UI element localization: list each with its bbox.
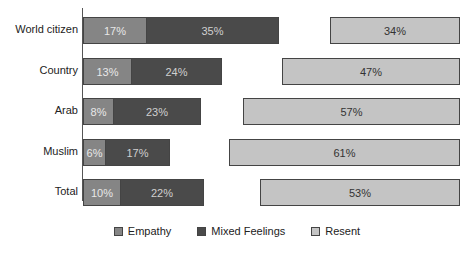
legend-label: Resent bbox=[325, 225, 360, 237]
bar-mixed-feelings: 23% bbox=[113, 98, 201, 125]
legend-label: Mixed Feelings bbox=[211, 225, 285, 237]
category-label: Arab bbox=[55, 104, 78, 116]
empathy-swatch-icon bbox=[114, 227, 123, 236]
bar-resent: 47% bbox=[282, 58, 460, 85]
bar-mixed-feelings: 24% bbox=[131, 58, 222, 85]
legend-label: Empathy bbox=[128, 225, 171, 237]
resent-swatch-icon bbox=[311, 227, 320, 236]
category-label: Total bbox=[55, 185, 78, 197]
bar-mixed-feelings: 35% bbox=[146, 17, 279, 44]
bar-empathy: 10% bbox=[83, 179, 120, 206]
bar-mixed-feelings: 22% bbox=[120, 179, 204, 206]
legend-item-empathy: Empathy bbox=[114, 225, 171, 237]
bar-resent: 57% bbox=[243, 98, 460, 125]
bar-resent: 53% bbox=[260, 179, 460, 206]
bar-empathy: 13% bbox=[83, 58, 131, 85]
legend: Empathy Mixed Feelings Resent bbox=[0, 225, 474, 237]
category-label: Country bbox=[39, 64, 78, 76]
bar-mixed-feelings: 17% bbox=[105, 139, 170, 166]
legend-item-resent: Resent bbox=[311, 225, 360, 237]
bar-resent: 34% bbox=[330, 17, 460, 44]
bar-empathy: 17% bbox=[83, 17, 146, 44]
bar-empathy: 8% bbox=[83, 98, 113, 125]
bar-empathy: 6% bbox=[83, 139, 105, 166]
category-label: Muslim bbox=[43, 145, 78, 157]
bar-resent: 61% bbox=[229, 139, 460, 166]
legend-item-mixed-feelings: Mixed Feelings bbox=[197, 225, 285, 237]
mixed-feelings-swatch-icon bbox=[197, 227, 206, 236]
category-label: World citizen bbox=[15, 23, 78, 35]
